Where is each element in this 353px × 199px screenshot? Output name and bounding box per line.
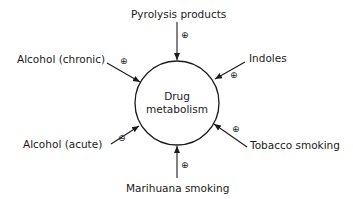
plus-sign-icon: ⊕: [232, 124, 240, 134]
center-label-line1: Drug: [137, 90, 217, 103]
label-tobacco-smoking: Tobacco smoking: [250, 139, 340, 151]
plus-sign-icon: ⊕: [230, 70, 238, 80]
center-label-line2: metabolism: [137, 103, 217, 116]
plus-sign-icon: ⊕: [181, 30, 189, 40]
arrow-tobacco: [214, 124, 247, 147]
label-alcohol-chronic: Alcohol (chronic): [17, 53, 105, 65]
label-alcohol-acute: Alcohol (acute): [23, 138, 102, 150]
plus-sign-icon: ⊕: [181, 160, 189, 170]
label-pyrolysis-products: Pyrolysis products: [131, 8, 226, 20]
plus-sign-icon: ⊕: [120, 56, 128, 66]
minus-sign-icon: ⊖: [118, 133, 126, 143]
label-indoles: Indoles: [249, 52, 287, 64]
center-label: Drug metabolism: [137, 90, 217, 116]
label-marihuana-smoking: Marihuana smoking: [126, 182, 229, 194]
